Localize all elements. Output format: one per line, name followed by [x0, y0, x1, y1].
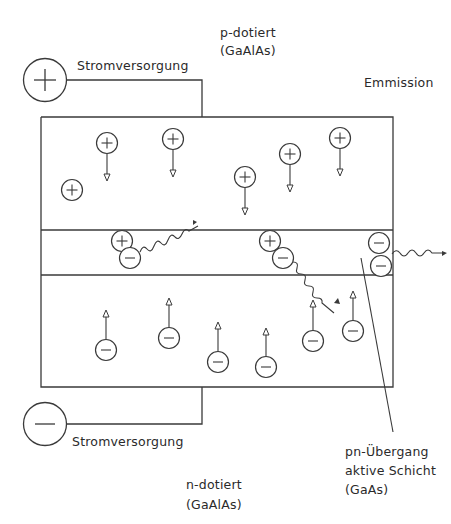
recombination-event-1: [112, 220, 199, 269]
hole: [62, 180, 83, 201]
p-layer-holes: [62, 128, 351, 216]
power-label-top: Stromversorgung: [77, 58, 189, 73]
electron: [371, 256, 392, 277]
emission-label: Emmission: [364, 75, 434, 90]
led-pn-junction-diagram: Stromversorgung p-dotiert (GaAlAs) Emmis…: [0, 0, 451, 524]
electron: [96, 310, 117, 361]
electron: [120, 248, 141, 269]
hole: [260, 231, 281, 252]
electron: [159, 298, 180, 349]
recombination-event-2: [260, 231, 341, 314]
electron: [273, 248, 294, 269]
hole: [163, 129, 184, 178]
photon-wave-icon: [392, 250, 442, 256]
junction-label: pn-Übergang: [345, 443, 429, 459]
power-label-bottom: Stromversorgung: [72, 434, 184, 449]
positive-wire: [67, 80, 203, 117]
electron: [256, 328, 277, 378]
recombination-event-3-emission: [369, 233, 448, 277]
p-doped-label: p-dotiert: [220, 25, 276, 40]
n-doped-material-label: (GaAlAs): [186, 497, 242, 512]
hole: [280, 144, 301, 193]
electron: [208, 322, 229, 373]
p-doped-material-label: (GaAlAs): [220, 43, 276, 58]
active-layer-material-label: (GaAs): [345, 482, 388, 497]
hole: [97, 133, 118, 182]
hole: [330, 128, 351, 177]
negative-wire: [67, 387, 203, 424]
electron: [369, 233, 390, 254]
pn-junction-leader-line: [361, 258, 393, 432]
active-layer-label: aktive Schicht: [345, 463, 436, 478]
n-doped-label: n-dotiert: [186, 477, 242, 492]
electron: [303, 300, 324, 352]
electron: [343, 291, 364, 342]
hole: [235, 167, 256, 216]
